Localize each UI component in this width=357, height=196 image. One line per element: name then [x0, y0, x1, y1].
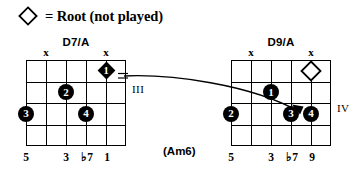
fret-line [231, 125, 331, 126]
interval-label: 1 [97, 152, 117, 164]
interval-label: ♭7 [77, 152, 97, 164]
root-diamond-filled-marker: 1 [97, 61, 116, 80]
muted-string-x-icon: x [101, 47, 111, 58]
interval-label: 5 [16, 152, 36, 164]
fret-line [26, 82, 126, 83]
finger-number: 3 [23, 108, 29, 119]
fretboard-grid-left: x x 1 2 3 4 [26, 60, 126, 146]
finger-number: 3 [288, 108, 294, 119]
muted-string-x-icon: x [246, 47, 256, 58]
position-marker-right: IV [337, 103, 349, 114]
finger-dot: 3 [283, 106, 299, 122]
fret-line [231, 103, 331, 104]
root-diamond-outline-icon [18, 6, 38, 26]
position-marker-left: III [132, 84, 144, 95]
muted-string-x-icon: x [306, 47, 316, 58]
legend-label: = Root (not played) [45, 9, 163, 24]
legend: = Root (not played) [18, 6, 163, 26]
finger-number: 1 [97, 61, 116, 80]
chord-name-left: D7/A [22, 36, 130, 48]
finger-number: 4 [308, 108, 314, 119]
interval-label: 3 [56, 152, 76, 164]
finger-dot: 2 [223, 106, 239, 122]
finger-dot: 4 [303, 106, 319, 122]
fret-line [26, 103, 126, 104]
muted-string-x-icon: x [41, 47, 51, 58]
finger-number: 1 [268, 87, 274, 98]
root-diamond-outline-marker [300, 60, 322, 82]
chord-chart-canvas: = Root (not played) D7/A x x 1 [0, 0, 357, 196]
interval-label: ♭7 [282, 152, 302, 164]
finger-number: 2 [63, 87, 69, 98]
interval-label: 3 [261, 152, 281, 164]
chord-name-right: D9/A [227, 36, 335, 48]
fretboard-grid-right: x x 1 2 3 4 [231, 60, 331, 146]
finger-number: 4 [83, 108, 89, 119]
fret-line [26, 125, 126, 126]
finger-number: 2 [228, 108, 234, 119]
interval-label: 5 [221, 152, 241, 164]
alternate-chord-name: (Am6) [163, 146, 196, 158]
interval-label: 9 [302, 152, 322, 164]
finger-dot: 4 [78, 106, 94, 122]
finger-dot: 3 [18, 106, 34, 122]
